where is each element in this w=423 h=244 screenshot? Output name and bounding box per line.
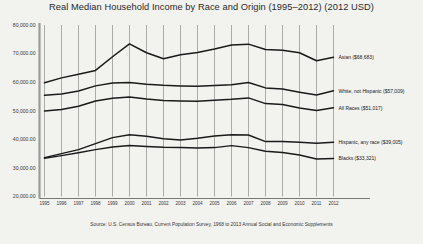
- series-lines: [45, 44, 334, 159]
- series-label-asian: Asian ($68,683): [339, 54, 374, 60]
- series-line-white-not-hispanic: [45, 82, 334, 95]
- y-tick-40000: 40,000.00: [0, 136, 36, 142]
- x-tick-2002: 2002: [155, 201, 173, 206]
- x-tick-1996: 1996: [53, 201, 71, 206]
- y-tick-70000: 70,000.00: [0, 50, 36, 56]
- x-tick-1997: 1997: [70, 201, 88, 206]
- x-tick-2007: 2007: [240, 201, 258, 206]
- y-tick-20000: 20,000.00: [0, 193, 36, 199]
- y-tick-30000: 30,000.00: [0, 165, 36, 171]
- axis-lines: [40, 23, 371, 199]
- x-tick-2001: 2001: [138, 201, 156, 206]
- x-tick-2003: 2003: [172, 201, 190, 206]
- x-tick-2005: 2005: [206, 201, 224, 206]
- series-label-white-not-hispanic: White, not Hispanic ($57,009): [339, 88, 405, 94]
- series-line-blacks: [45, 146, 334, 159]
- x-tick-1995: 1995: [36, 201, 54, 206]
- x-tick-2012: 2012: [325, 201, 343, 206]
- x-tick-2004: 2004: [189, 201, 207, 206]
- y-tick-50000: 50,000.00: [0, 108, 36, 114]
- series-line-asian: [45, 44, 334, 83]
- x-tick-2000: 2000: [121, 201, 139, 206]
- x-tick-2011: 2011: [308, 201, 326, 206]
- series-label-hispanic-any-race: Hispanic, any race ($39,005): [339, 139, 403, 145]
- source-note: Source: U.S. Census Bureau, Current Popu…: [0, 222, 423, 227]
- y-tick-60000: 60,000.00: [0, 79, 36, 85]
- x-tick-2010: 2010: [291, 201, 309, 206]
- x-tick-2006: 2006: [223, 201, 241, 206]
- x-tick-2008: 2008: [257, 201, 275, 206]
- x-tick-1998: 1998: [87, 201, 105, 206]
- chart-figure: Real Median Household Income by Race and…: [0, 0, 423, 244]
- x-tick-1999: 1999: [104, 201, 122, 206]
- x-tick-2009: 2009: [274, 201, 292, 206]
- series-label-blacks: Blacks ($33,321): [339, 155, 377, 161]
- series-label-all-races: All Races ($51,017): [339, 105, 383, 111]
- plot-area: [0, 0, 423, 244]
- series-line-all-races: [45, 97, 334, 111]
- y-tick-80000: 80,000.00: [0, 22, 36, 28]
